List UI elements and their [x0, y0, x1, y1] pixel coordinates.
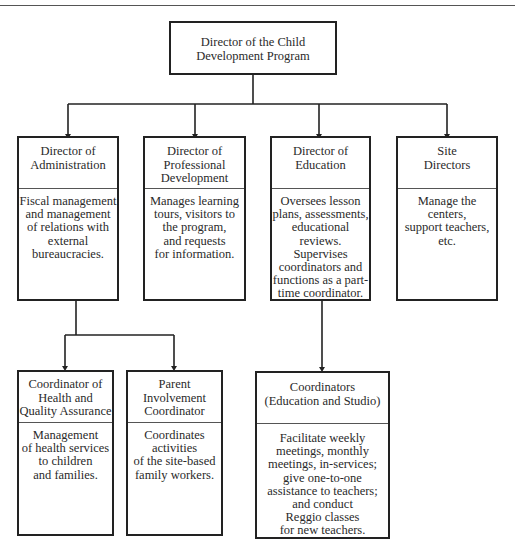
node-site-directors: Site Directors Manage the centers, suppo…: [396, 136, 498, 301]
node-title: Coordinator of Health and Quality Assura…: [19, 372, 112, 423]
node-description: Fiscal management and management of rela…: [19, 189, 117, 261]
node-description: Manage the centers, support teachers, et…: [398, 189, 496, 248]
node-description: Management of health services to childre…: [19, 423, 112, 482]
node-title: Parent Involvement Coordinator: [128, 372, 221, 423]
node-parent-involvement-coordinator: Parent Involvement Coordinator Coordinat…: [126, 370, 223, 536]
node-description: Oversees lesson plans, assessments, educ…: [272, 189, 369, 301]
node-title: Director of Administration: [19, 138, 117, 189]
node-description: Coordinates activities of the site-based…: [128, 423, 221, 482]
node-coordinators-education-studio: Coordinators (Education and Studio) Faci…: [255, 371, 390, 539]
node-title: Director of Professional Development: [145, 138, 244, 189]
node-title: Director of the Child Development Progra…: [171, 23, 335, 73]
node-director-education: Director of Education Oversees lesson pl…: [270, 136, 371, 301]
node-title: Director of Education: [272, 138, 369, 189]
node-description: Manages learning tours, visitors to the …: [145, 189, 244, 261]
node-title: Coordinators (Education and Studio): [257, 373, 388, 424]
node-description: Facilitate weekly meetings, monthly meet…: [257, 424, 388, 538]
node-coordinator-health-quality: Coordinator of Health and Quality Assura…: [17, 370, 114, 536]
node-title: Site Directors: [398, 138, 496, 189]
node-director-administration: Director of Administration Fiscal manage…: [17, 136, 119, 301]
page-top-rule: [0, 5, 515, 6]
node-director-professional-development: Director of Professional Development Man…: [143, 136, 246, 301]
node-director-child-development: Director of the Child Development Progra…: [169, 21, 337, 75]
